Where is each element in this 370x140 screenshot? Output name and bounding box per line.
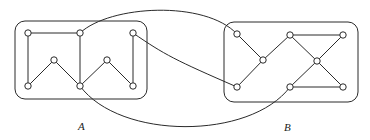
- node-a2: [77, 30, 83, 36]
- graph-diagram: [0, 0, 370, 140]
- edge-a7-a5: [80, 60, 107, 86]
- node-b5: [314, 58, 320, 64]
- node-b6: [234, 84, 240, 90]
- cross-edge-a2-b1: [80, 10, 237, 34]
- node-a7: [77, 83, 83, 89]
- edge-b4-b2: [263, 35, 290, 60]
- cross-edge-a3-b6: [133, 33, 237, 87]
- label-a: A: [78, 120, 85, 132]
- edge-a6-a4: [28, 60, 54, 86]
- node-a8: [130, 83, 136, 89]
- edge-b4-b6: [237, 60, 263, 87]
- node-b4: [260, 57, 266, 63]
- edge-b5-b8: [317, 61, 343, 87]
- node-b3: [340, 32, 346, 38]
- cross-edges: [80, 10, 290, 126]
- edge-b5-b7: [290, 61, 317, 87]
- edge-b1-b4: [237, 34, 263, 60]
- edge-a4-a7: [54, 60, 80, 86]
- edge-a5-a8: [107, 60, 133, 86]
- edge-b2-b5: [290, 35, 317, 61]
- node-b8: [340, 84, 346, 90]
- node-a1: [25, 30, 31, 36]
- node-a3: [130, 30, 136, 36]
- node-a4: [51, 57, 57, 63]
- cross-edge-a7-b7: [80, 86, 290, 127]
- edges: [28, 33, 343, 87]
- node-a5: [104, 57, 110, 63]
- edge-b3-b5: [317, 35, 343, 61]
- node-b2: [287, 32, 293, 38]
- node-b1: [234, 31, 240, 37]
- nodes: [25, 30, 346, 90]
- node-a6: [25, 83, 31, 89]
- label-b: B: [284, 121, 291, 133]
- node-b7: [287, 84, 293, 90]
